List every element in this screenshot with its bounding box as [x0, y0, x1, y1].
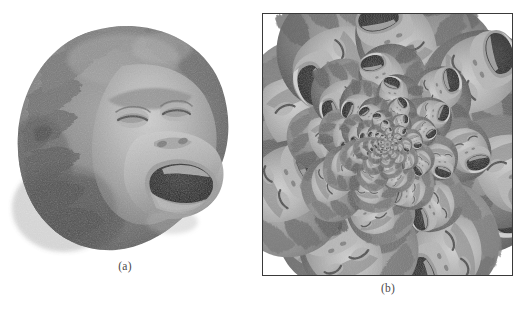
orangutan-head-group	[4, 25, 228, 254]
panel-a	[4, 8, 252, 258]
droste-kaleidoscope-image	[263, 14, 512, 275]
orangutan-head-image	[4, 8, 252, 258]
caption-panel-a: (a)	[85, 260, 165, 272]
panel-b	[262, 13, 513, 276]
droste-spiral	[263, 14, 512, 275]
figure-root: (a)	[0, 0, 531, 312]
panel-b-frame	[262, 13, 513, 276]
caption-panel-b: (b)	[348, 282, 428, 294]
